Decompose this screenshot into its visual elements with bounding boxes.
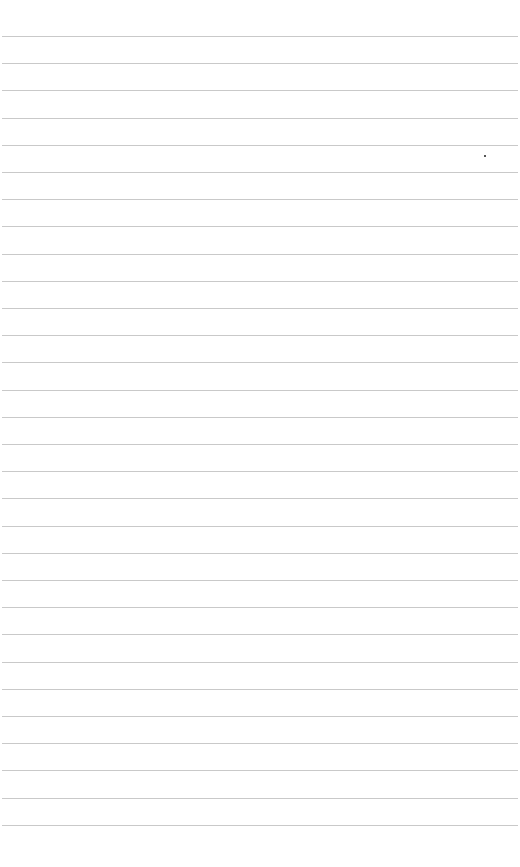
ruled-line [2,90,518,91]
ruled-line [2,281,518,282]
ruled-line [2,580,518,581]
ruled-line [2,199,518,200]
ruled-line [2,390,518,391]
ruled-line [2,498,518,499]
ruled-line [2,607,518,608]
ruled-line [2,743,518,744]
ruled-line [2,634,518,635]
ruled-line [2,716,518,717]
ruled-line [2,254,518,255]
ruled-line [2,798,518,799]
ruled-line [2,172,518,173]
ruled-line [2,226,518,227]
ruled-line [2,526,518,527]
ink-dot [484,155,486,157]
ruled-line [2,553,518,554]
ruled-line [2,362,518,363]
ruled-line [2,444,518,445]
ruled-line [2,417,518,418]
ruled-line [2,662,518,663]
ruled-line [2,335,518,336]
ruled-line [2,63,518,64]
ruled-line [2,689,518,690]
ruled-line [2,471,518,472]
ruled-line [2,36,518,37]
ruled-line [2,825,518,826]
ruled-line [2,770,518,771]
ruled-line [2,308,518,309]
ruled-line [2,118,518,119]
ruled-line [2,145,518,146]
